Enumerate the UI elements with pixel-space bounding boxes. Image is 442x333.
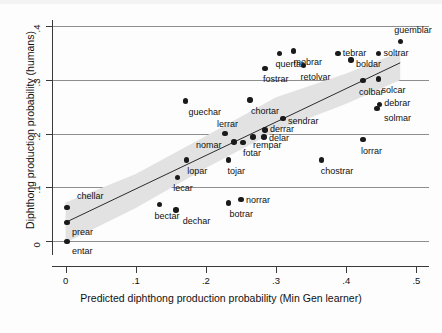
data-point[interactable]: [64, 220, 69, 225]
x-tick-label: .2: [191, 275, 221, 286]
data-point[interactable]: [184, 157, 189, 162]
data-point[interactable]: [262, 127, 267, 132]
data-point[interactable]: [238, 197, 243, 202]
x-tick-mark: [276, 266, 277, 273]
x-tick-mark: [136, 266, 137, 273]
data-point-label: guemblar: [394, 26, 432, 35]
x-axis-line: [52, 266, 429, 267]
x-axis-title: Predicted diphthong production probabili…: [0, 292, 442, 304]
x-tick-mark: [346, 266, 347, 273]
data-point[interactable]: [240, 140, 245, 145]
data-point[interactable]: [231, 139, 236, 144]
data-point-label: derrar: [270, 125, 294, 134]
data-point-label: chellar: [77, 192, 104, 201]
x-tick-mark: [206, 266, 207, 273]
data-point[interactable]: [277, 51, 282, 56]
data-point[interactable]: [348, 57, 353, 62]
data-point[interactable]: [398, 39, 403, 44]
y-tick-mark: [46, 80, 53, 81]
data-point-label: mobrar: [294, 58, 323, 67]
data-point[interactable]: [173, 207, 178, 212]
data-point[interactable]: [360, 78, 365, 83]
data-point-label: sendrar: [288, 117, 319, 126]
data-point[interactable]: [157, 202, 162, 207]
data-point-label: botrar: [229, 210, 253, 219]
y-tick-mark: [46, 241, 53, 242]
data-point[interactable]: [262, 66, 267, 71]
data-point[interactable]: [360, 137, 365, 142]
y-tick-mark: [46, 134, 53, 135]
data-point[interactable]: [222, 131, 227, 136]
data-point-label: retolvar: [300, 73, 330, 82]
data-point-label: tebrar: [343, 49, 367, 58]
data-point-label: lecar: [173, 184, 193, 193]
x-tick-mark: [416, 266, 417, 273]
data-point[interactable]: [261, 134, 266, 139]
data-point-label: delar: [269, 134, 289, 143]
data-point-label: lerrar: [217, 120, 238, 129]
data-point[interactable]: [64, 239, 69, 244]
x-tick-label: .3: [261, 275, 291, 286]
figure-top-edge: [0, 0, 442, 4]
data-point[interactable]: [374, 106, 379, 111]
data-point-label: nomar: [196, 141, 222, 150]
data-point-label: tojar: [227, 167, 245, 176]
data-point-label: boldar: [356, 60, 381, 69]
data-point-label: debrar: [384, 99, 410, 108]
data-point-label: chortar: [251, 107, 279, 116]
scatter-plot-figure: 0.1.2.3.4 0.1.2.3.4.5 chellarprearentarb…: [0, 0, 442, 333]
data-point-label: prear: [72, 228, 93, 237]
data-point[interactable]: [226, 157, 231, 162]
y-axis-title: Diphthong production probability (humans…: [24, 5, 36, 255]
data-point[interactable]: [175, 175, 180, 180]
data-point[interactable]: [183, 98, 188, 103]
x-tick-mark: [66, 266, 67, 273]
cropped-caption-text: [6, 322, 236, 328]
data-point-label: bectar: [155, 212, 180, 221]
data-point-label: guechar: [189, 108, 222, 117]
y-tick-mark: [46, 187, 53, 188]
data-point[interactable]: [226, 200, 231, 205]
data-point-label: solcar: [382, 86, 406, 95]
x-tick-label: 0: [51, 275, 81, 286]
data-point-label: chostrar: [321, 167, 354, 176]
data-point[interactable]: [301, 63, 306, 68]
x-tick-label: .5: [401, 275, 431, 286]
data-point-label: norrar: [246, 196, 270, 205]
data-point[interactable]: [280, 116, 285, 121]
data-point[interactable]: [291, 48, 296, 53]
data-point-label: lopar: [187, 167, 207, 176]
data-point-label: fostrar: [263, 75, 289, 84]
data-point-label: entar: [72, 247, 93, 256]
y-tick-mark: [46, 26, 53, 27]
data-point[interactable]: [64, 205, 69, 210]
plot-area: chellarprearentarbectardecharlecarloparg…: [53, 22, 429, 253]
data-point-label: solmar: [384, 114, 411, 123]
data-point-label: lorrar: [361, 147, 382, 156]
data-point-label: colbar: [359, 88, 384, 97]
data-point[interactable]: [376, 76, 381, 81]
data-point[interactable]: [250, 134, 255, 139]
data-point-label: soltrar: [384, 49, 409, 58]
data-point-label: dechar: [183, 217, 211, 226]
data-point[interactable]: [247, 97, 252, 102]
data-point[interactable]: [376, 51, 381, 56]
x-tick-label: .1: [121, 275, 151, 286]
data-point[interactable]: [319, 157, 324, 162]
data-point-label: fotar: [243, 149, 261, 158]
data-point[interactable]: [335, 51, 340, 56]
x-tick-label: .4: [331, 275, 361, 286]
